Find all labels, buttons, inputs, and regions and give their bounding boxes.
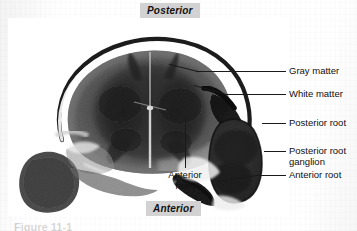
- orientation-label-posterior: Posterior: [140, 3, 200, 18]
- orientation-label-anterior: Anterior: [146, 201, 201, 216]
- leader-line-posterior-root-ganglion: [264, 151, 286, 152]
- callout-gray-matter: Gray matter: [289, 66, 339, 77]
- leader-line-posterior-root: [262, 123, 286, 124]
- callout-anterior-horn-line2: horn: [159, 181, 211, 192]
- callout-posterior-root-ganglion-line1: Posterior root: [289, 146, 346, 157]
- callout-anterior-root: Anterior root: [289, 170, 341, 181]
- leader-line-anterior-horn: [185, 116, 186, 168]
- callout-anterior-horn-line1: Anterior: [159, 170, 211, 181]
- leader-line-white-matter: [224, 94, 286, 95]
- figure-caption-partial: Figure 11-1: [14, 221, 72, 231]
- callout-posterior-root-ganglion-line2: ganglion: [289, 157, 325, 168]
- callout-posterior-root: Posterior root: [289, 118, 346, 129]
- leader-line-anterior-root: [256, 175, 286, 176]
- leader-line-gray-matter: [196, 71, 286, 72]
- figure-container: Posterior Anterior Gray matter White mat…: [0, 0, 357, 231]
- spinal-cord-specimen-image: [8, 18, 290, 216]
- callout-white-matter: White matter: [289, 89, 343, 100]
